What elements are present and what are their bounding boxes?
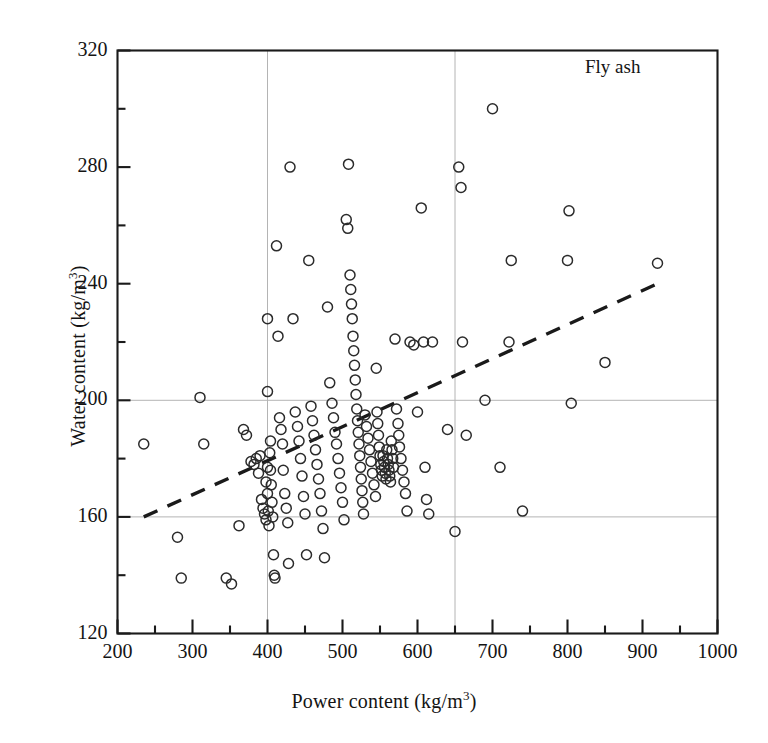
data-point <box>173 532 183 542</box>
data-point <box>356 474 366 484</box>
data-point <box>320 553 330 563</box>
data-point <box>285 162 295 172</box>
data-point <box>314 474 324 484</box>
data-point <box>350 360 360 370</box>
data-point <box>297 471 307 481</box>
data-point <box>359 509 369 519</box>
data-point <box>315 489 325 499</box>
data-point <box>566 398 576 408</box>
data-point <box>323 302 333 312</box>
data-point <box>318 524 328 534</box>
data-point <box>335 468 345 478</box>
data-point <box>366 457 376 467</box>
data-point <box>456 183 466 193</box>
data-point <box>461 430 471 440</box>
data-point <box>311 445 321 455</box>
data-point <box>600 357 610 367</box>
data-point <box>283 518 293 528</box>
data-point <box>267 497 277 507</box>
data-point <box>294 436 304 446</box>
data-point <box>347 314 357 324</box>
data-point <box>458 337 468 347</box>
data-point <box>242 430 252 440</box>
data-point <box>308 416 318 426</box>
data-point <box>332 439 342 449</box>
data-point <box>354 439 364 449</box>
data-point <box>495 462 505 472</box>
data-point <box>317 506 327 516</box>
data-point <box>349 346 359 356</box>
data-point <box>348 331 358 341</box>
data-point <box>275 413 285 423</box>
data-point <box>199 439 209 449</box>
data-point <box>254 468 264 478</box>
data-point <box>139 439 149 449</box>
data-point <box>273 331 283 341</box>
data-point <box>346 285 356 295</box>
data-point <box>393 419 403 429</box>
data-point <box>288 314 298 324</box>
data-point <box>402 506 412 516</box>
data-point <box>300 509 310 519</box>
data-point <box>293 422 303 432</box>
data-point <box>344 159 354 169</box>
data-point <box>424 509 434 519</box>
chart-figure: Fly ash Power content (kg/m3) Water cont… <box>0 0 768 743</box>
data-point <box>176 573 186 583</box>
x-tick-label: 800 <box>533 640 603 663</box>
data-point <box>372 407 382 417</box>
data-point <box>312 459 322 469</box>
data-point <box>350 375 360 385</box>
data-point <box>355 451 365 461</box>
data-point <box>357 486 367 496</box>
x-axis-title-tail: ) <box>470 690 477 712</box>
data-point <box>239 424 249 434</box>
data-point <box>398 465 408 475</box>
y-tick-label: 200 <box>48 387 108 410</box>
data-point <box>351 389 361 399</box>
data-point <box>276 424 286 434</box>
y-tick-label: 160 <box>48 504 108 527</box>
data-point <box>420 462 430 472</box>
y-tick-label: 240 <box>48 271 108 294</box>
data-point <box>280 489 290 499</box>
data-point <box>339 515 349 525</box>
data-point <box>374 430 384 440</box>
data-point <box>327 398 337 408</box>
x-tick-label: 1000 <box>683 640 753 663</box>
data-point <box>504 337 514 347</box>
data-point <box>296 454 306 464</box>
data-point <box>653 258 663 268</box>
x-tick-label: 300 <box>158 640 228 663</box>
x-axis-title-base: Power content (kg/m <box>291 690 463 712</box>
data-point <box>356 462 366 472</box>
data-point <box>195 392 205 402</box>
data-point <box>284 559 294 569</box>
data-point <box>325 378 335 388</box>
data-point <box>518 506 528 516</box>
data-point <box>336 483 346 493</box>
data-point <box>302 550 312 560</box>
data-point <box>365 445 375 455</box>
y-tick-label: 120 <box>48 621 108 644</box>
data-point <box>563 255 573 265</box>
x-tick-label: 400 <box>233 640 303 663</box>
data-point <box>371 363 381 373</box>
data-point <box>299 492 309 502</box>
data-point <box>347 299 357 309</box>
data-point <box>413 407 423 417</box>
data-point <box>363 433 373 443</box>
data-point <box>371 492 381 502</box>
data-point <box>333 454 343 464</box>
data-point <box>278 439 288 449</box>
data-point <box>265 448 275 458</box>
data-point <box>394 430 404 440</box>
data-point <box>345 270 355 280</box>
x-tick-label: 500 <box>308 640 378 663</box>
data-point <box>278 465 288 475</box>
data-point <box>390 334 400 344</box>
data-point <box>304 255 314 265</box>
x-tick-label: 900 <box>608 640 678 663</box>
data-point <box>392 404 402 414</box>
y-tick-label: 320 <box>48 38 108 61</box>
